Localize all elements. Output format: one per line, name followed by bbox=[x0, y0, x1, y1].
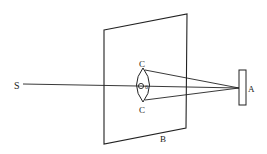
label-source: S bbox=[14, 80, 20, 91]
label-lens-top: C bbox=[139, 59, 145, 69]
label-lens-center-sub: 6 bbox=[145, 84, 148, 90]
label-lens-bottom: C bbox=[139, 105, 145, 115]
ray-bottom bbox=[145, 88, 239, 100]
axis-ray bbox=[137, 86, 239, 88]
screen-plane bbox=[104, 14, 187, 144]
label-target: A bbox=[248, 84, 255, 94]
optics-diagram: S C C 6 A B bbox=[0, 0, 267, 154]
incident-ray bbox=[23, 84, 137, 86]
target-plate bbox=[239, 70, 246, 105]
ray-top bbox=[145, 70, 239, 88]
label-screen: B bbox=[160, 134, 166, 144]
